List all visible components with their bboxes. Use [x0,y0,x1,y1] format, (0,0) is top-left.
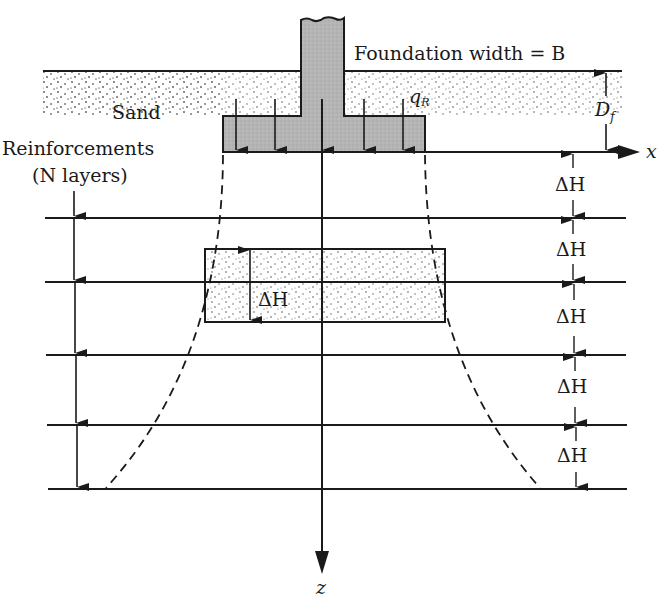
zone-delta-h-label: ΔH [258,288,288,310]
foundation-width-label: Foundation width = B [354,42,565,64]
delta-h-label-3: ΔH [556,305,586,327]
delta-h-label-4: ΔH [557,375,587,397]
z-axis-arrowhead [315,551,329,574]
reinforced-zone [205,249,445,322]
reinforcement-depth-arrows [74,191,77,487]
delta-h-label-2: ΔH [556,238,586,260]
delta-h-label-5: ΔH [557,444,587,466]
x-axis-arrowhead [618,145,640,159]
x-axis-label: x [646,140,657,162]
reinforced-foundation-diagram: Foundation width = B Sand qR Df Reinforc… [0,0,669,602]
z-axis-label: z [315,576,327,598]
sand-label: Sand [112,101,161,123]
n-layers-label: (N layers) [32,164,128,186]
delta-h-label-1: ΔH [555,173,585,195]
reinforcements-label: Reinforcements [2,137,154,159]
